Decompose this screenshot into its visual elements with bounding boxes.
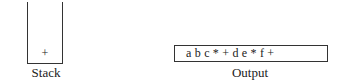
- stack-label: Stack: [20, 65, 72, 80]
- output-box: a b c * + d e * f +: [174, 45, 328, 62]
- output-label: Output: [215, 65, 285, 80]
- stack-item-top: +: [28, 47, 62, 59]
- stack-container: +: [27, 2, 63, 64]
